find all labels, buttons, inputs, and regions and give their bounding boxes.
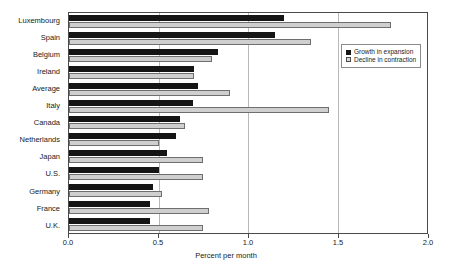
legend-label-contraction: Decline in contraction	[354, 57, 416, 64]
y-axis-label: Canada	[0, 114, 64, 131]
x-tick-label: 1.5	[333, 239, 343, 247]
legend-label-expansion: Growth in expansion	[354, 49, 413, 56]
bar-decline-in-contraction	[69, 107, 329, 113]
x-tick-label: 0.0	[63, 239, 73, 247]
y-axis-label: Belgium	[0, 46, 64, 63]
bar-growth-in-expansion	[69, 218, 150, 224]
bar-growth-in-expansion	[69, 201, 150, 207]
bar-row	[69, 13, 427, 30]
bar-growth-in-expansion	[69, 100, 193, 106]
bar-decline-in-contraction	[69, 22, 391, 28]
legend-swatch-contraction-icon	[346, 57, 351, 62]
y-axis-category-labels: LuxembourgSpainBelgiumIrelandAverageItal…	[0, 12, 64, 234]
bar-growth-in-expansion	[69, 116, 180, 122]
bar-growth-in-expansion	[69, 150, 167, 156]
bar-decline-in-contraction	[69, 39, 311, 45]
bar-row	[69, 81, 427, 98]
y-axis-label: Netherlands	[0, 132, 64, 149]
bar-row	[69, 115, 427, 132]
bar-row	[69, 199, 427, 216]
y-axis-label: Luxembourg	[0, 12, 64, 29]
y-axis-label: Ireland	[0, 63, 64, 80]
bar-decline-in-contraction	[69, 191, 162, 197]
y-axis-label: Germany	[0, 183, 64, 200]
y-axis-label: U.S.	[0, 166, 64, 183]
bar-decline-in-contraction	[69, 208, 209, 214]
bar-decline-in-contraction	[69, 157, 203, 163]
chart-legend: Growth in expansion Decline in contracti…	[341, 44, 421, 68]
legend-swatch-expansion-icon	[346, 50, 351, 55]
x-tick-label: 0.5	[153, 239, 163, 247]
bar-decline-in-contraction	[69, 140, 159, 146]
y-axis-label: France	[0, 200, 64, 217]
bar-decline-in-contraction	[69, 73, 194, 79]
bar-growth-in-expansion	[69, 83, 198, 89]
bar-growth-in-expansion	[69, 167, 159, 173]
legend-item-contraction: Decline in contraction	[346, 57, 416, 64]
bar-row	[69, 182, 427, 199]
x-axis-title: Percent per month	[0, 252, 452, 260]
bar-row	[69, 148, 427, 165]
bar-chart: LuxembourgSpainBelgiumIrelandAverageItal…	[0, 0, 452, 276]
bar-decline-in-contraction	[69, 225, 203, 231]
bar-growth-in-expansion	[69, 133, 176, 139]
y-axis-label: U.K.	[0, 217, 64, 234]
x-axis-ticks: 0.00.51.01.52.0	[68, 234, 428, 250]
legend-item-expansion: Growth in expansion	[346, 49, 416, 56]
bar-row	[69, 98, 427, 115]
bar-row	[69, 216, 427, 233]
bar-decline-in-contraction	[69, 56, 212, 62]
bar-growth-in-expansion	[69, 184, 153, 190]
bar-growth-in-expansion	[69, 66, 194, 72]
y-axis-label: Average	[0, 80, 64, 97]
bar-growth-in-expansion	[69, 49, 218, 55]
bar-growth-in-expansion	[69, 32, 275, 38]
bar-row	[69, 165, 427, 182]
bar-row	[69, 131, 427, 148]
bar-decline-in-contraction	[69, 90, 230, 96]
y-axis-label: Spain	[0, 29, 64, 46]
y-axis-label: Italy	[0, 97, 64, 114]
bar-decline-in-contraction	[69, 174, 203, 180]
x-tick-label: 1.0	[243, 239, 253, 247]
bar-growth-in-expansion	[69, 15, 284, 21]
y-axis-label: Japan	[0, 149, 64, 166]
x-tick-label: 2.0	[423, 239, 433, 247]
bar-decline-in-contraction	[69, 123, 185, 129]
